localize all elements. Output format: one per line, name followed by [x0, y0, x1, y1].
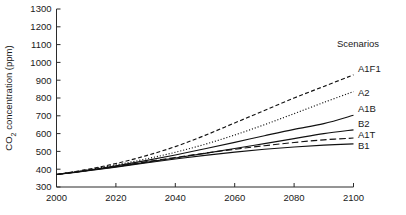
- x-tick-label: 2000: [46, 192, 67, 203]
- series-line-a1f1: [57, 75, 354, 175]
- y-tick-label: 1000: [30, 57, 51, 68]
- chart-canvas: 3004005006007008009001000110012001300200…: [0, 0, 406, 215]
- series-label-b2: B2: [358, 118, 370, 129]
- y-tick-label: 600: [36, 128, 52, 139]
- y-tick-label: 1200: [30, 21, 51, 32]
- x-tick-label: 2060: [224, 192, 245, 203]
- series-label-a1f1: A1F1: [358, 63, 381, 74]
- y-tick-label: 800: [36, 92, 52, 103]
- axis-spines: [57, 9, 354, 187]
- series-line-a2: [57, 92, 354, 175]
- y-tick-label: 400: [36, 164, 52, 175]
- series-label-a1t: A1T: [358, 129, 376, 140]
- y-tick-label: 500: [36, 146, 52, 157]
- series-label-a1b: A1B: [358, 103, 376, 114]
- svg-text:CO2 concentration (ppm): CO2 concentration (ppm): [3, 45, 17, 150]
- co2-scenarios-chart: 3004005006007008009001000110012001300200…: [0, 0, 406, 215]
- y-tick-label: 1100: [31, 39, 51, 50]
- x-tick-label: 2020: [105, 192, 126, 203]
- y-tick-label: 700: [36, 110, 52, 121]
- series-line-a1b: [57, 115, 354, 174]
- x-tick-label: 2040: [165, 192, 186, 203]
- y-tick-label: 300: [36, 181, 52, 192]
- y-tick-label: 1300: [30, 3, 51, 14]
- series-label-a2: A2: [358, 87, 370, 98]
- y-tick-label: 900: [36, 75, 52, 86]
- x-tick-label: 2100: [343, 192, 364, 203]
- x-tick-label: 2080: [284, 192, 305, 203]
- legend-title: Scenarios: [337, 38, 379, 49]
- y-axis-title: CO2 concentration (ppm): [3, 45, 17, 150]
- series-label-b1: B1: [358, 140, 370, 151]
